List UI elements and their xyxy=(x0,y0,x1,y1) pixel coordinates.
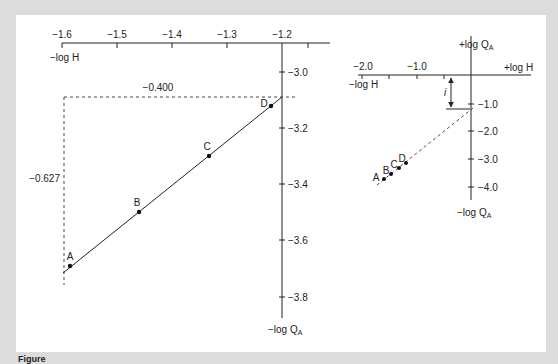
left-fit-line xyxy=(63,97,282,273)
figure-caption: Figure xyxy=(18,354,46,364)
point-c-label: C xyxy=(203,141,210,152)
right-xtick-label: −2.0 xyxy=(353,61,373,72)
point-b-label: B xyxy=(134,197,141,208)
right-ytick-label: −3.0 xyxy=(478,154,498,165)
point-b xyxy=(389,172,393,176)
left-xtick-label: −1.3 xyxy=(217,29,237,40)
point-a-label: A xyxy=(373,172,380,183)
point-b xyxy=(137,210,141,214)
right-x-pos-label: +log H xyxy=(504,62,533,73)
left-points: A B C D xyxy=(67,98,274,268)
point-b-label: B xyxy=(383,165,390,176)
right-y-neg-label: −log QA xyxy=(457,207,492,219)
point-a-label: A xyxy=(67,251,74,262)
right-ytick-label: −2.0 xyxy=(478,126,498,137)
left-ytick-label: −3.2 xyxy=(288,123,308,134)
left-chart: −1.6 −1.5 −1.4 −1.3 −1.2 −log H −3.0 −3.… xyxy=(29,29,330,336)
point-c-label: C xyxy=(390,159,397,170)
right-ytick-label: −4.0 xyxy=(478,182,498,193)
right-chart: −2.0 −1.0 −log H +log H +log QA −1.0 −2.… xyxy=(349,36,533,219)
point-d-label: D xyxy=(398,153,405,164)
left-xtick-label: −1.4 xyxy=(162,29,182,40)
left-x-ticks xyxy=(62,43,308,48)
intercept-label: i xyxy=(444,87,447,98)
right-y-pos-label: +log QA xyxy=(459,39,494,51)
delta-x-label: −0.400 xyxy=(143,82,174,93)
left-ytick-label: −3.4 xyxy=(288,179,308,190)
left-xtick-label: −1.6 xyxy=(52,29,72,40)
delta-y-label: −0.627 xyxy=(29,173,60,184)
right-xtick-label: −1.0 xyxy=(407,61,427,72)
right-x-neg-label: −log H xyxy=(349,79,378,90)
left-xtick-label: −1.5 xyxy=(107,29,127,40)
left-ytick-label: −3.8 xyxy=(288,292,308,303)
point-a xyxy=(382,177,386,181)
left-xtick-label: −1.2 xyxy=(272,29,292,40)
point-d xyxy=(269,104,273,108)
left-ytick-label: −3.6 xyxy=(288,235,308,246)
point-d-label: D xyxy=(260,98,267,109)
right-ytick-label: −1.0 xyxy=(478,99,498,110)
left-ytick-label: −3.0 xyxy=(288,67,308,78)
right-points: A B C D xyxy=(373,153,408,183)
left-y-axis-label: −log QA xyxy=(268,324,303,336)
left-x-axis-label: −log H xyxy=(50,52,79,63)
point-c xyxy=(207,154,211,158)
point-a xyxy=(68,264,72,268)
